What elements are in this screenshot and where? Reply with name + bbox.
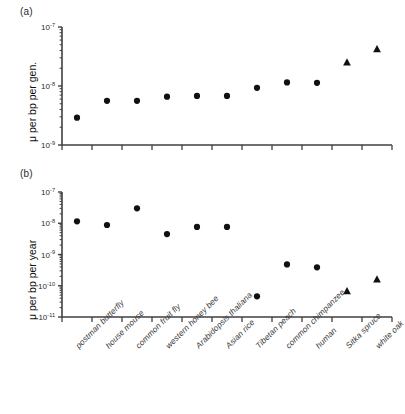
data-point-circle bbox=[314, 264, 320, 270]
data-point-circle bbox=[134, 98, 140, 104]
y-tick-label: 10-8 bbox=[41, 218, 55, 228]
data-point-circle bbox=[194, 93, 200, 99]
y-tick-label: 10-8 bbox=[41, 81, 55, 91]
data-point-circle bbox=[104, 222, 110, 228]
data-point-triangle bbox=[373, 45, 381, 52]
data-point-circle bbox=[104, 98, 110, 104]
y-tick-label: 10-7 bbox=[41, 187, 55, 197]
y-tick-label: 10-11 bbox=[38, 312, 55, 322]
data-point-circle bbox=[224, 224, 230, 230]
x-axis-category-labels: postman butterflyhouse mousecommon fruit… bbox=[0, 340, 401, 414]
y-tick-label: 10-10 bbox=[38, 281, 55, 291]
y-tick-label: 10-9 bbox=[41, 249, 55, 259]
data-point-circle bbox=[164, 231, 170, 237]
y-tick-label: 10-9 bbox=[41, 140, 55, 150]
data-point-circle bbox=[194, 224, 200, 230]
data-point-circle bbox=[284, 79, 290, 85]
data-point-circle bbox=[74, 115, 80, 121]
data-point-triangle bbox=[343, 58, 351, 65]
data-point-circle bbox=[134, 205, 140, 211]
panel-a-plot: 10-710-810-9 bbox=[0, 0, 401, 160]
data-point-circle bbox=[224, 93, 230, 99]
data-point-circle bbox=[254, 293, 260, 299]
data-point-circle bbox=[74, 218, 80, 224]
panel-a: (a) μ per bp per gen. 10-710-810-9 bbox=[0, 0, 401, 160]
data-point-triangle bbox=[373, 275, 381, 282]
y-tick-label: 10-7 bbox=[41, 22, 55, 32]
data-point-circle bbox=[314, 80, 320, 86]
data-point-circle bbox=[254, 85, 260, 91]
data-point-circle bbox=[284, 261, 290, 267]
data-point-circle bbox=[164, 94, 170, 100]
